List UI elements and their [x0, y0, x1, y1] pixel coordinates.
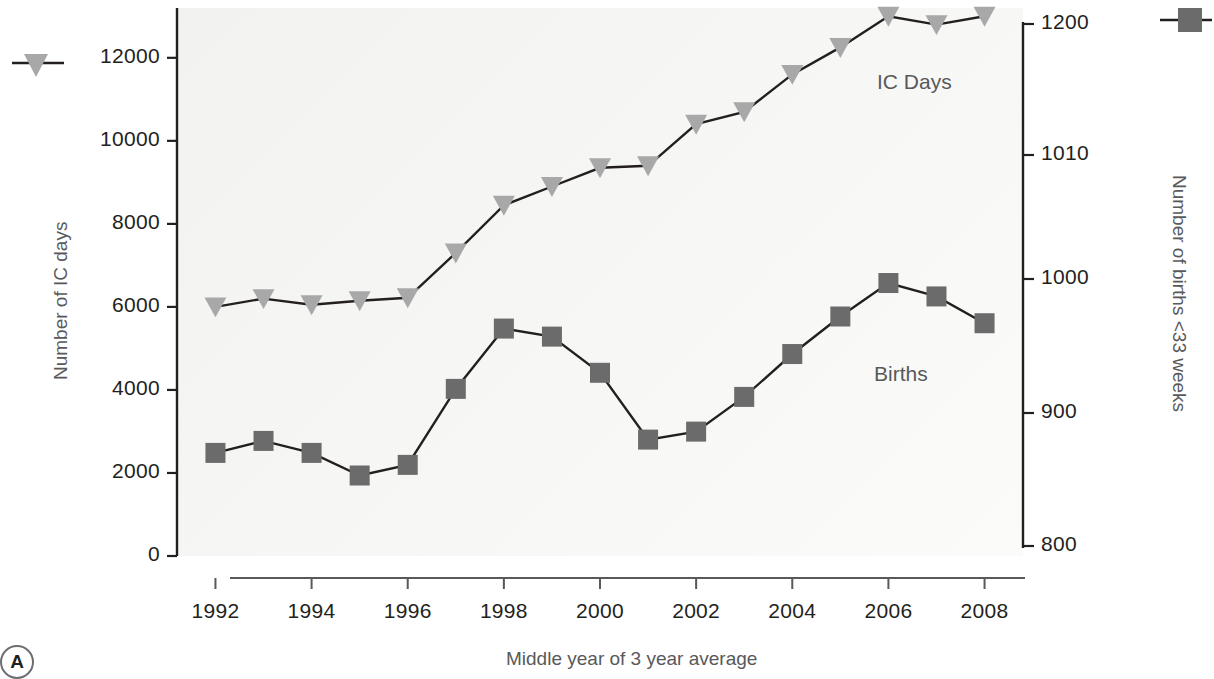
births-marker	[446, 379, 466, 399]
ic-days-marker	[733, 102, 755, 122]
ic-days-marker	[925, 15, 947, 35]
births-marker	[350, 466, 370, 486]
ic-days-marker	[541, 177, 563, 197]
left-axis-tick: 10000	[40, 127, 160, 151]
series-label-births: Births	[874, 362, 928, 386]
births-marker	[590, 363, 610, 383]
ic-days-marker	[204, 297, 226, 317]
legend-births-square-icon	[1178, 8, 1202, 32]
series-label-ic-days: IC Days	[877, 70, 952, 94]
births-marker	[254, 431, 274, 451]
left-axis-tick: 2000	[40, 459, 160, 483]
x-axis-tick: 2008	[940, 599, 1030, 623]
births-marker	[638, 430, 658, 450]
births-marker	[734, 387, 754, 407]
x-axis-tick: 1992	[170, 599, 260, 623]
right-axis-tick: 1010	[1041, 141, 1089, 165]
ic-days-marker	[829, 38, 851, 58]
x-axis-title: Middle year of 3 year average	[506, 648, 757, 670]
births-marker	[205, 443, 225, 463]
legend-markers	[12, 8, 1212, 77]
births-marker	[926, 286, 946, 306]
births-marker	[686, 422, 706, 442]
x-axis-tick: 1994	[267, 599, 357, 623]
left-axis-tick: 0	[40, 542, 160, 566]
births-marker	[302, 443, 322, 463]
x-axis-tick: 2000	[555, 599, 645, 623]
births-marker	[398, 455, 418, 475]
left-axis-tick: 12000	[40, 44, 160, 68]
births-marker	[782, 344, 802, 364]
right-axis-tick: 1200	[1041, 10, 1089, 34]
x-axis-tick: 1996	[363, 599, 453, 623]
births-marker	[494, 319, 514, 339]
births-marker	[830, 307, 850, 327]
axes-lines	[167, 8, 1034, 589]
x-axis-tick: 2006	[843, 599, 933, 623]
births-marker	[542, 327, 562, 347]
x-axis-tick: 2002	[651, 599, 741, 623]
right-axis-tick: 900	[1041, 399, 1077, 423]
births-marker	[975, 313, 995, 333]
left-axis-title: Number of IC days	[50, 222, 72, 380]
right-axis-tick: 1000	[1041, 265, 1089, 289]
panel-label-a: A	[0, 645, 34, 679]
right-axis-title: Number of births <33 weeks	[1168, 175, 1190, 412]
x-axis-tick: 1998	[459, 599, 549, 623]
births-marker	[878, 273, 898, 293]
right-axis-tick: 800	[1041, 532, 1077, 556]
x-axis-tick: 2004	[747, 599, 837, 623]
